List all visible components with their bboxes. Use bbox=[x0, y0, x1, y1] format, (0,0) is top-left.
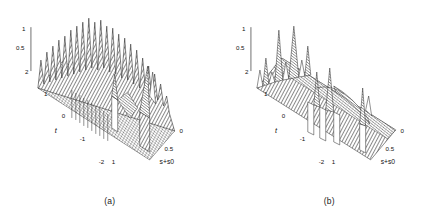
surface-plot-b: 1 0.5 2 1 0 -1 -2 t 0 0.5 1 s+s0 bbox=[220, 0, 439, 196]
t-axis-label: t bbox=[274, 126, 277, 135]
t-tick-neg1: -1 bbox=[299, 135, 305, 142]
z-tick-1: 1 bbox=[22, 25, 26, 32]
t-tick-0: 0 bbox=[62, 112, 66, 119]
s-tick-0: 0 bbox=[400, 127, 404, 134]
t-tick-neg2: -2 bbox=[318, 158, 324, 165]
panel-b-caption: (b) bbox=[220, 196, 439, 206]
t-tick-1: 1 bbox=[263, 90, 267, 97]
s-tick-1: 1 bbox=[112, 158, 116, 165]
z-axis-b: 1 0.5 bbox=[235, 25, 250, 71]
s-axis-label: s+s0 bbox=[160, 158, 175, 165]
panel-a: 1 0.5 2 1 0 -1 -2 t 0 0.5 1 s+s0 (a) bbox=[0, 0, 220, 224]
t-tick-0: 0 bbox=[281, 112, 285, 119]
z-tick-05: 0.5 bbox=[235, 44, 244, 51]
panel-b: 1 0.5 2 1 0 -1 -2 t 0 0.5 1 s+s0 (b) bbox=[220, 0, 439, 224]
figure-two-panel-surface-plots: 1 0.5 2 1 0 -1 -2 t 0 0.5 1 s+s0 (a) bbox=[0, 0, 439, 224]
s-axis-label: s+s0 bbox=[380, 158, 395, 165]
s-tick-0: 0 bbox=[180, 127, 184, 134]
s-tick-05: 0.5 bbox=[385, 145, 394, 152]
s-tick-1: 1 bbox=[331, 158, 335, 165]
t-tick-1: 1 bbox=[44, 90, 48, 97]
t-tick-neg2: -2 bbox=[99, 158, 105, 165]
t-tick-2: 2 bbox=[25, 68, 29, 75]
z-tick-1: 1 bbox=[241, 25, 245, 32]
z-tick-05: 0.5 bbox=[16, 44, 25, 51]
t-tick-neg1: -1 bbox=[80, 135, 86, 142]
panel-a-caption: (a) bbox=[0, 196, 220, 206]
t-tick-2: 2 bbox=[244, 68, 248, 75]
s-tick-05: 0.5 bbox=[165, 145, 174, 152]
t-axis-label: t bbox=[55, 126, 58, 135]
surface-plot-a: 1 0.5 2 1 0 -1 -2 t 0 0.5 1 s+s0 bbox=[0, 0, 220, 196]
z-axis-a: 1 0.5 bbox=[16, 25, 31, 71]
